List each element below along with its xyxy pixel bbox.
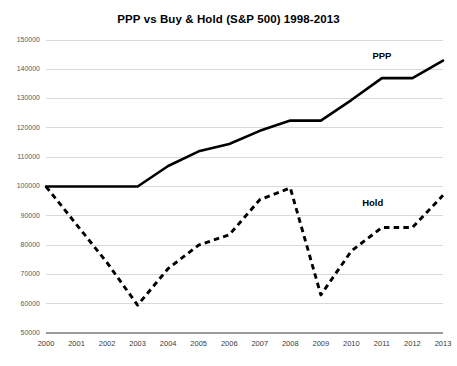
y-tick-label: 70000 [21,270,41,277]
x-tick-label: 2013 [435,339,452,348]
series-label-hold: Hold [362,197,383,208]
x-axis-tick-labels: 2000200120022003200420052006200720082009… [38,339,452,348]
series-label-ppp: PPP [372,50,392,61]
y-tick-label: 80000 [21,241,41,248]
x-tick-label: 2003 [129,339,146,348]
chart-container: PPP vs Buy & Hold (S&P 500) 1998-2013 50… [0,0,457,366]
x-tick-label: 2005 [190,339,207,348]
series-annotations: PPPHold [362,50,392,208]
x-tick-label: 2009 [313,339,330,348]
series-line-hold [46,187,443,306]
y-tick-label: 130000 [17,94,40,101]
y-axis-tick-labels: 5000060000700008000090000100000110000120… [17,36,40,336]
x-tick-label: 2010 [343,339,360,348]
series-line-ppp [46,61,443,187]
y-gridlines [46,40,443,304]
chart-plot-area: 5000060000700008000090000100000110000120… [0,0,457,366]
y-tick-label: 120000 [17,124,40,131]
x-tick-label: 2008 [282,339,299,348]
y-tick-label: 110000 [17,153,40,160]
y-tick-label: 150000 [17,36,40,43]
x-tick-label: 2000 [38,339,55,348]
y-tick-label: 140000 [17,65,40,72]
series-lines [46,61,443,306]
y-tick-label: 50000 [21,329,41,336]
x-tick-label: 2006 [221,339,238,348]
x-tick-label: 2004 [160,339,177,348]
x-tick-label: 2011 [374,339,390,348]
x-tick-label: 2002 [99,339,116,348]
y-tick-label: 100000 [17,182,40,189]
x-tick-label: 2001 [68,339,85,348]
y-tick-label: 90000 [21,212,41,219]
x-tick-label: 2007 [251,339,268,348]
x-tick-label: 2012 [404,339,421,348]
y-tick-label: 60000 [21,300,41,307]
